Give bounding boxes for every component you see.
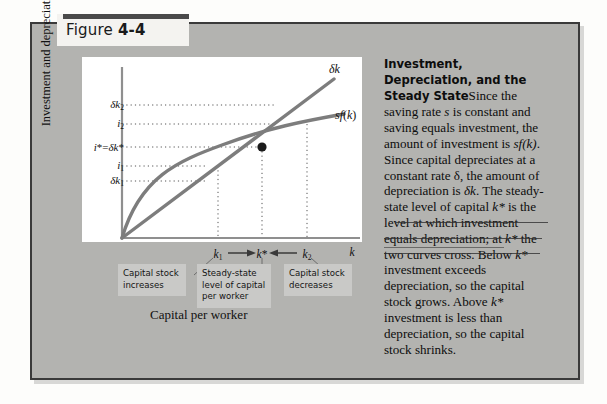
curve-depreciation-deltak: [122, 79, 334, 238]
callout-center-line2: level of capital: [202, 280, 266, 292]
y-axis-label: Investment and depreciation: [39, 0, 54, 136]
y-tick-i2: i2: [78, 117, 124, 131]
caption-var-kstar-3: k*: [515, 247, 527, 262]
annotation-underline-2: [384, 238, 542, 239]
annotation-underline-3: [384, 253, 540, 254]
x-tick-k1: k1: [214, 248, 223, 262]
caption-var-kstar-1: k*: [492, 199, 504, 214]
caption-var-kstar-4: k*: [491, 294, 503, 309]
x-axis-label: Capital per worker: [150, 307, 247, 323]
callout-right-line1: Capital stock: [289, 268, 347, 280]
y-tick-i-star-equals-delta-k-star: i*=δk*: [60, 141, 124, 153]
caption-var-sfk: sf(k): [513, 136, 536, 151]
callout-center-line3: per worker: [202, 291, 266, 303]
callout-right-line2: decreases: [289, 280, 347, 292]
steady-state-point: [257, 142, 266, 151]
y-tick-i1: i1: [78, 159, 124, 173]
figure-caption: Investment, Depreciation, and the Steady…: [384, 56, 552, 357]
callout-capital-stock-increases: Capital stock increases: [118, 264, 186, 296]
caption-var-deltak: δk: [464, 183, 476, 198]
textbook-figure-page: Figure 4-4 Investment and depreciation: [0, 0, 607, 404]
curve-label-delta-k: δk: [329, 62, 340, 77]
figure-title-number: 4-4: [118, 21, 146, 39]
annotation-underline-1: [396, 222, 548, 223]
curve-label-sf-k: sf(k): [335, 108, 356, 123]
annotation-strikethrough: [384, 247, 504, 248]
figure-title-rule: [63, 14, 189, 19]
caption-body-8: investment is less than depreciation, so…: [384, 310, 524, 357]
callout-steady-state-level: Steady-state level of capital per worker: [197, 264, 271, 308]
callout-left-line2: increases: [123, 280, 181, 292]
x-tick-k-axis: k: [349, 246, 354, 258]
x-tick-k2: k2: [303, 248, 312, 262]
callout-center-line1: Steady-state: [202, 268, 266, 280]
figure-title: Figure 4-4: [66, 21, 146, 39]
y-tick-delta-k1: δk1: [78, 174, 124, 188]
x-tick-k-star: k*: [257, 248, 268, 260]
figure-title-prefix: Figure: [66, 21, 118, 39]
callout-left-line1: Capital stock: [123, 268, 181, 280]
curve-investment-sfk: [122, 114, 344, 238]
callout-capital-stock-decreases: Capital stock decreases: [284, 264, 352, 296]
y-tick-delta-k2: δk2: [78, 98, 124, 112]
